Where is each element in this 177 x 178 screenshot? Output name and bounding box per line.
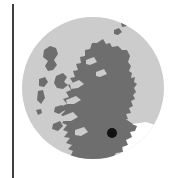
map-canvas <box>0 0 177 178</box>
locator-map-figure <box>0 0 177 178</box>
location-marker-dot[interactable] <box>107 128 117 138</box>
